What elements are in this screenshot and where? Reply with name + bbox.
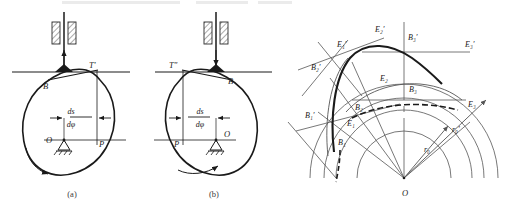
panel-a-label-O: O bbox=[46, 135, 52, 145]
panel-b-label-O: O bbox=[224, 129, 230, 139]
panel-c-label-r0: r₀ bbox=[424, 145, 430, 154]
panel-b-label-P: P bbox=[173, 139, 179, 149]
panel-c-label-E1: E₁ bbox=[346, 119, 355, 128]
panel-c-label-B1: B₁ bbox=[338, 138, 346, 147]
panel-a-label-P: P bbox=[98, 139, 104, 149]
panel-c-label-O: O bbox=[402, 188, 408, 198]
panel-b-dphi-denominator: dφ bbox=[196, 120, 205, 129]
panel-c-label-E2: E₂ bbox=[379, 74, 388, 83]
cam-mechanism-figure: T' B O P ds dφ (a) bbox=[0, 0, 505, 210]
panel-a-caption: (a) bbox=[67, 189, 77, 199]
panel-b-label-B: B bbox=[228, 76, 233, 86]
panel-c-label-r0-prime: r₀′ bbox=[452, 125, 460, 134]
panel-a-label-T-prime: T' bbox=[89, 60, 96, 70]
panel-b-ds-numerator: ds bbox=[196, 107, 203, 116]
panel-c-center-point bbox=[403, 177, 406, 180]
panel-a-dphi-denominator: dφ bbox=[67, 120, 76, 129]
panel-c-label-E1-prime: E₁′ bbox=[336, 40, 347, 49]
panel-c-label-E3-prime: E₃′ bbox=[464, 40, 475, 49]
panel-c-label-B2: B₂ bbox=[355, 103, 363, 112]
panel-a-label-B: B bbox=[43, 81, 48, 91]
panel-c-label-E3: E₃ bbox=[467, 100, 476, 109]
panel-c-label-B3-prime: B₃′ bbox=[408, 33, 418, 42]
panel-c-label-E2-prime: E₂′ bbox=[374, 25, 385, 34]
panel-a-ds-numerator: ds bbox=[67, 107, 74, 116]
panel-c-label-B1-prime: B₁′ bbox=[305, 111, 315, 120]
panel-c-label-B2-prime: B₂′ bbox=[311, 63, 321, 72]
panel-b-label-T-double-prime: T″ bbox=[169, 60, 178, 70]
panel-c-label-B3: B₃ bbox=[409, 85, 417, 94]
panel-b-caption: (b) bbox=[209, 189, 219, 199]
